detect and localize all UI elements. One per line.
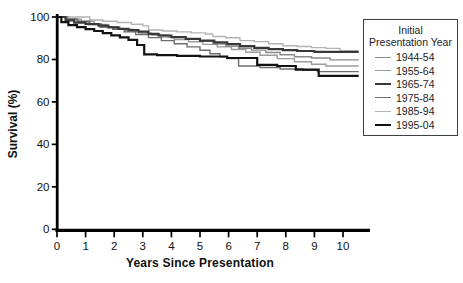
legend-line-swatch (375, 111, 391, 112)
y-tick-label: 100 (30, 11, 49, 23)
legend-item-1965-74: 1965-74 (375, 79, 453, 90)
legend-title: Initial Presentation Year (368, 24, 453, 49)
y-tick-label: 20 (37, 181, 50, 193)
y-tick-label: 60 (37, 96, 50, 108)
legend-item-label: 1944-54 (396, 51, 435, 63)
x-tick-label: 5 (197, 240, 203, 252)
x-tick-label: 7 (254, 240, 260, 252)
x-tick-label: 9 (311, 240, 317, 252)
x-axis-title: Years Since Presentation (90, 256, 310, 270)
legend-line-swatch (375, 97, 391, 98)
y-tick-label: 40 (37, 138, 50, 150)
legend-line-swatch (375, 124, 391, 126)
legend-item-1944-54: 1944-54 (375, 52, 453, 63)
x-tick-label: 1 (82, 240, 88, 252)
x-tick-label: 6 (225, 240, 231, 252)
legend-items: 1944-541955-641965-741975-841985-941995-… (368, 52, 453, 131)
x-tick-label: 10 (337, 240, 350, 252)
legend-item-1995-04: 1995-04 (375, 119, 453, 130)
legend-line-swatch (375, 57, 391, 58)
legend-line-swatch (375, 70, 391, 71)
legend: Initial Presentation Year 1944-541955-64… (363, 19, 458, 136)
legend-item-1975-84: 1975-84 (375, 92, 453, 103)
x-tick-label: 4 (168, 240, 175, 252)
legend-item-label: 1985-94 (396, 105, 435, 117)
legend-item-1955-64: 1955-64 (375, 65, 453, 76)
x-tick-label: 0 (54, 240, 60, 252)
legend-item-label: 1965-74 (396, 78, 435, 90)
legend-item-label: 1955-64 (396, 65, 435, 77)
legend-item-label: 1995-04 (396, 119, 435, 131)
y-axis-title: Survival (%) (6, 64, 20, 184)
x-tick-label: 8 (283, 240, 289, 252)
legend-item-label: 1975-84 (396, 92, 435, 104)
y-tick-label: 0 (43, 223, 49, 235)
survival-curve-1944-54 (57, 17, 359, 60)
survival-chart-figure: 012345678910020406080100 Survival (%) Ye… (0, 0, 463, 283)
legend-item-1985-94: 1985-94 (375, 106, 453, 117)
x-tick-label: 2 (111, 240, 117, 252)
legend-line-swatch (375, 83, 391, 85)
x-tick-label: 3 (140, 240, 146, 252)
y-tick-label: 80 (37, 53, 50, 65)
